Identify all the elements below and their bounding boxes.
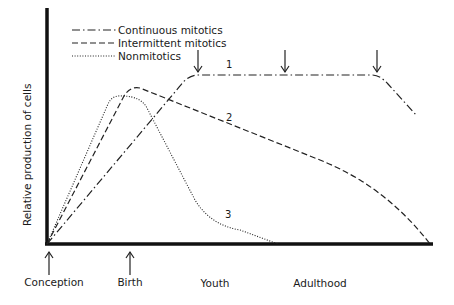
curve-label-3: 3 [225, 209, 231, 220]
x-label-youth: Youth [201, 277, 230, 289]
curve-continuous-mitotics [47, 75, 417, 244]
chart-canvas [0, 0, 454, 305]
arrow-down-icon [194, 50, 202, 72]
legend-intermittent-mitotics: Intermittent mitotics [118, 37, 226, 49]
x-label-conception: Conception [24, 276, 83, 288]
curve-label-2: 2 [226, 112, 232, 123]
curve-label-1: 1 [226, 59, 232, 70]
legend-continuous-mitotics: Continuous mitotics [118, 24, 223, 36]
arrow-down-icon [373, 50, 381, 72]
arrow-up-icon [45, 252, 53, 275]
y-axis-label: Relative production of cells [21, 84, 33, 226]
arrow-up-icon [126, 252, 134, 275]
arrow-down-icon [281, 50, 289, 72]
curve-nonmitotics [47, 96, 278, 244]
x-label-birth: Birth [117, 276, 142, 288]
legend-nonmitotics: Nonmitotics [118, 50, 181, 62]
curve-intermittent-mitotics [47, 88, 430, 244]
x-label-adulthood: Adulthood [293, 277, 347, 289]
